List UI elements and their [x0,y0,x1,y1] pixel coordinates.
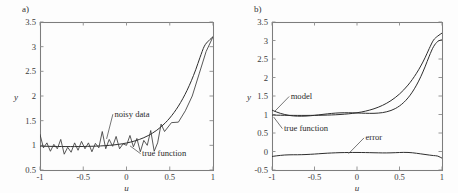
y-tick-label: 3.5 [25,17,36,27]
y-tick-label: 3 [32,42,36,52]
y-tick-label: 2 [264,73,268,83]
y-axis-title: y [246,92,251,102]
y-tick-label: 1 [264,110,268,120]
x-tick-label: 0.5 [164,172,175,182]
y-axis-title: y [13,92,18,102]
x-axis-title: u [355,183,360,193]
annotation-leader [107,114,113,139]
y-tick-label: 3 [264,36,268,46]
x-tick-label: 0 [124,172,128,182]
x-tick-label: -0.5 [308,172,322,182]
annotation-label: model [291,91,313,101]
annotation-leader [349,138,365,154]
annotation-label: true function [284,123,329,133]
y-tick-label: 0 [264,147,268,157]
series-noisy-data [40,37,213,154]
figure-canvas: -1-0.500.510.511.522.533.5uya)noisy data… [0,0,458,193]
x-axis-title: u [124,183,129,193]
y-tick-label: 1.5 [25,116,36,126]
x-tick-label: 0.5 [394,172,405,182]
x-tick-label: 0 [355,172,359,182]
series-error [272,152,442,158]
annotation-label: error [366,132,383,142]
panel-label: a) [22,4,29,14]
y-tick-label: 0.5 [257,128,268,138]
figure-root: -1-0.500.510.511.522.533.5uya)noisy data… [0,0,458,193]
y-tick-label: 1 [32,140,36,150]
x-tick-label: -1 [268,172,275,182]
plot-frame [41,23,214,171]
series-model [272,40,442,116]
y-tick-label: 2.5 [25,66,36,76]
annotation-label: noisy data [114,109,149,119]
series-true-function [272,33,442,115]
plot-panel-1: -1-0.500.510.511.522.533.5uya)noisy data… [13,4,215,193]
y-tick-label: 3.5 [257,17,268,27]
series-group [40,37,213,154]
y-tick-label: 2 [32,91,36,101]
annotation-leader [275,96,290,111]
y-tick-label: -0.5 [254,165,268,175]
y-tick-label: 0.5 [25,165,36,175]
x-tick-label: -1 [36,172,43,182]
series-true-function [40,37,213,147]
panel-label: b) [254,4,262,14]
y-tick-label: 1.5 [257,91,268,101]
y-tick-label: 2.5 [257,54,268,64]
x-tick-label: 1 [211,172,215,182]
x-tick-label: 1 [440,172,444,182]
annotation-leader [274,117,283,129]
annotation-label: true function [142,148,187,158]
plot-panel-2: -1-0.500.51-0.500.511.522.533.5uyb)model… [246,4,444,193]
x-tick-label: -0.5 [76,172,90,182]
